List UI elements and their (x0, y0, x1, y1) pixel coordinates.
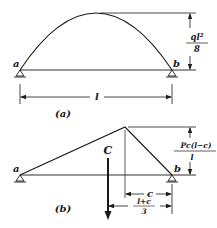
max-moment-denominator: l (190, 152, 193, 162)
diagram-b: a b C Pc(l−c) l c l+c 3 (b) (13, 127, 216, 220)
pin-support-icon (14, 70, 26, 77)
support-label-a: a (13, 163, 19, 174)
pin-support-icon (14, 175, 26, 182)
parabola-curve (20, 13, 172, 70)
resultant-dim-denominator: 3 (141, 207, 146, 216)
triangle-moment (20, 127, 172, 175)
support-label-b: b (173, 58, 180, 69)
max-moment-numerator: ql² (191, 32, 204, 42)
moment-diagrams: a b ql² 8 l (a) a b (0, 0, 217, 228)
support-label-b: b (174, 163, 181, 174)
diagram-a: a b ql² 8 l (a) (13, 13, 208, 119)
caption-a: (a) (55, 108, 71, 119)
support-label-a: a (13, 58, 19, 69)
resultant-dim-numerator: l+c (137, 197, 151, 206)
caption-b: (b) (55, 203, 72, 214)
roller-support-icon (166, 70, 178, 77)
max-moment-denominator: 8 (194, 44, 200, 54)
arrowhead-icon (105, 211, 112, 220)
span-label: l (95, 91, 99, 102)
max-moment-numerator: Pc(l−c) (179, 141, 211, 150)
resultant-label: C (104, 144, 113, 157)
roller-support-icon (166, 175, 178, 182)
